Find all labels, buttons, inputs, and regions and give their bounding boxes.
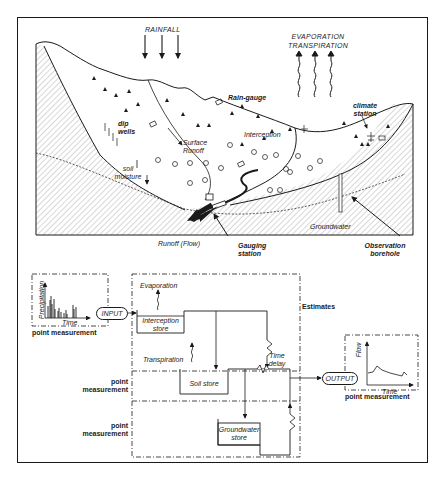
point-measurement-groundwater-label-2: measurement [70,430,128,438]
dip-wells-label-2: wells [118,128,135,136]
dip-wells-label: dip [118,120,129,128]
runoff-flow-label: Runoff (Flow) [158,240,200,248]
output-point-measurement-caption: point measurement [345,393,410,401]
evaporation-arrows [296,51,334,97]
soil-moisture-label-2: moisture [112,173,144,181]
time-delay-label: Time [266,352,288,360]
transpiration-label: Transpiration [143,356,183,364]
soil-store-label: Soil store [180,380,228,388]
gauging-station-label: Gauging [238,242,266,250]
precipitation-bars [48,296,76,318]
interception-label: Interception [244,131,281,139]
flow-axis-label: Flow [355,343,363,358]
time-delay-label-2: delay [266,360,288,368]
input-node: INPUT [96,307,128,320]
precipitation-axis-label: Precipitation [38,276,46,324]
groundwater-store-label: Groundwater [218,426,260,434]
flow-hydrograph [368,366,407,376]
point-measurement-groundwater-label: point [70,422,128,430]
transpiration-label: TRANSPIRATION [288,42,348,50]
hill-outline [36,42,413,132]
groundwater-store-label-2: store [218,434,260,442]
output-node: OUTPUT [322,372,358,385]
soil-moisture-label: soil [112,165,144,173]
evaporation-model-label: Evaporation [140,282,177,290]
input-time-axis-label: Time [62,319,78,327]
observation-borehole-label-2: borehole [360,250,410,258]
climate-station-label: climate [350,102,380,110]
estimates-label: Estimates [302,303,335,311]
climate-station-label-2: station [350,110,380,118]
rainfall-arrows [145,35,178,58]
interception-store-label: Interception [137,317,184,325]
point-measurement-soil-label: point [70,378,128,386]
evaporation-label: EVAPORATION [288,33,348,41]
groundwater-label: Groundwater [310,223,350,231]
bedrock-hatch [36,44,413,235]
rain-gauge-label: Rain-gauge [228,94,266,102]
landscape [36,35,413,236]
point-measurement-soil-label-2: measurement [70,386,128,394]
surface-runoff-label-2: Runoff [183,147,204,155]
trees [92,76,390,146]
gauging-station-label-2: station [238,250,261,258]
input-point-measurement-caption: point measurement [32,329,97,337]
rainfall-label: RAINFALL [145,26,180,34]
interception-store-label-2: store [137,325,184,333]
surface-runoff-label: Surface [183,139,207,147]
observation-borehole-label: Observation [360,242,410,250]
